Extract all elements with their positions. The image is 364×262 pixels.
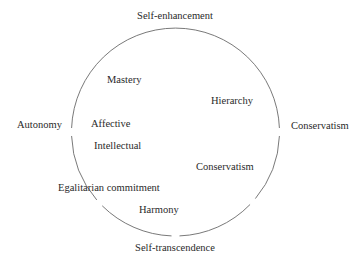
circumplex-diagram: Self-enhancement Self-transcendence Auto…	[0, 0, 364, 262]
circle-arc-segment	[255, 136, 279, 199]
inner-label-affective: Affective	[91, 118, 131, 129]
inner-label-hierarchy: Hierarchy	[211, 95, 254, 106]
inner-label-egalitarian-commitment: Egalitarian commitment	[58, 182, 160, 193]
pole-label-right: Conservatism	[291, 120, 349, 131]
inner-label-mastery: Mastery	[107, 74, 142, 85]
circle-arc-segment	[72, 28, 280, 128]
pole-label-top: Self-enhancement	[137, 10, 213, 21]
pole-label-bottom: Self-transcendence	[135, 242, 215, 253]
inner-label-conservatism: Conservatism	[196, 161, 254, 172]
inner-label-intellectual: Intellectual	[94, 140, 141, 151]
inner-label-harmony: Harmony	[139, 204, 179, 215]
circle-arc-segment	[179, 205, 250, 236]
pole-label-left: Autonomy	[17, 119, 63, 130]
